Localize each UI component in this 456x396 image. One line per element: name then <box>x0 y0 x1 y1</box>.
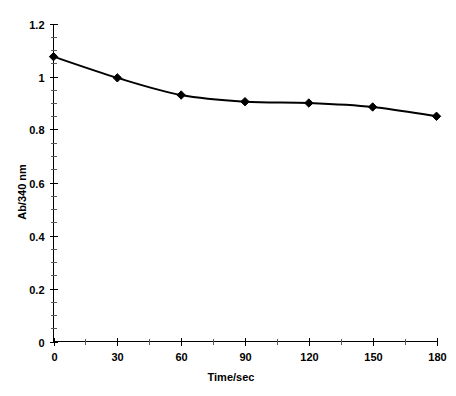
x-tick-label: 150 <box>364 351 382 363</box>
line-chart: 00.20.40.60.811.20306090120150180Time/se… <box>0 0 456 396</box>
y-tick-label: 1 <box>38 72 44 84</box>
y-tick-label: 0.6 <box>29 178 44 190</box>
y-tick-label: 0.8 <box>29 124 44 136</box>
x-tick-label: 120 <box>300 351 318 363</box>
x-tick-label: 180 <box>428 351 446 363</box>
x-tick-label: 90 <box>239 351 251 363</box>
x-axis-title: Time/sec <box>208 371 255 383</box>
y-tick-label: 0.2 <box>29 284 44 296</box>
y-tick-label: 0.4 <box>29 231 45 243</box>
data-point-marker <box>113 74 121 82</box>
data-point-marker <box>49 52 57 60</box>
data-point-marker <box>432 112 440 120</box>
chart-figure: 00.20.40.60.811.20306090120150180Time/se… <box>0 0 456 396</box>
data-point-marker <box>177 91 185 99</box>
series-line <box>54 57 437 117</box>
data-series <box>54 57 437 117</box>
y-tick-label: 0 <box>38 337 44 349</box>
data-markers <box>49 52 440 120</box>
data-point-marker <box>368 103 376 111</box>
data-point-marker <box>305 99 313 107</box>
x-tick-label: 30 <box>111 351 123 363</box>
x-tick-label: 0 <box>51 351 57 363</box>
y-tick-label: 1.2 <box>29 19 44 31</box>
data-point-marker <box>241 97 249 105</box>
x-tick-label: 60 <box>175 351 187 363</box>
y-axis-title: Ab/340 nm <box>16 164 28 220</box>
